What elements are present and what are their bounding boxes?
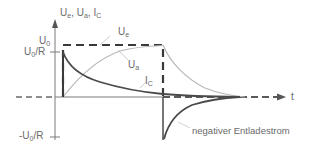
tick-label-neg-u0-over-r: -U0/R [19,131,43,142]
y-axis-arrow-icon [52,19,58,28]
leader-u-a [118,50,128,60]
ic-sub: C [148,80,153,87]
leader-u-e [100,36,110,45]
u0-sub: 0 [46,40,50,47]
tick-label-u0-over-r: U0/R [24,47,45,58]
leader-negative-discharge [178,122,190,128]
nu0r-suffix: /R [33,130,43,141]
curve-label-u-e: Ue [118,27,129,38]
curve-label-u-a: Ua [128,60,139,71]
curve-label-i-c: IC [145,76,153,87]
x-axis-label: t [291,92,294,102]
u0r-suffix: /R [35,46,45,57]
y-label-ic-sub: C [96,12,101,19]
x-axis-arrow-icon [277,94,286,101]
curve-i-c-charge [63,52,240,97]
y-axis-label: Ue, Ua, IC [60,8,101,19]
y-label-ua: U [77,7,84,18]
nu0r-prefix: -U [19,130,30,141]
curve-u-a-discharge [163,45,245,97]
ua-sub: a [135,64,139,71]
ue-sub: e [125,31,129,38]
annotation-negative-discharge: negativer Entladestrom [192,126,290,136]
